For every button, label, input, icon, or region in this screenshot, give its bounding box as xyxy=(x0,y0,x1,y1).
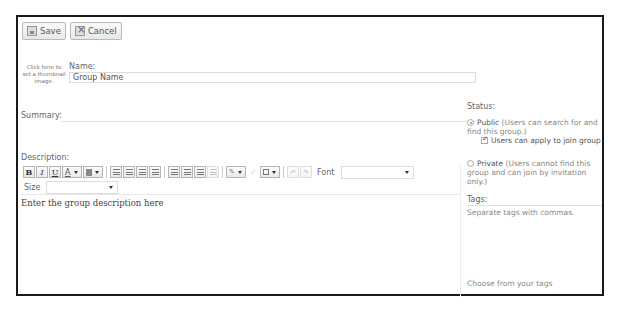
highlight-color-button[interactable] xyxy=(83,166,103,178)
choose-tags-link[interactable]: Choose from your tags xyxy=(467,279,552,288)
unlink-icon: ⤢ xyxy=(250,168,256,176)
font-color-icon: A xyxy=(65,168,70,177)
outdent-icon xyxy=(197,169,204,175)
image-icon xyxy=(263,169,269,175)
toolbar-divider xyxy=(106,166,107,178)
private-radio[interactable] xyxy=(467,160,474,167)
size-row: Size xyxy=(21,180,460,195)
description-label: Description: xyxy=(21,153,69,162)
bold-button[interactable]: B xyxy=(23,166,35,178)
justify-button[interactable] xyxy=(149,166,161,178)
sidebar: Status: Public (Users can search for and… xyxy=(467,102,602,217)
tags-label: Tags: xyxy=(467,195,602,204)
description-textarea[interactable]: Enter the group description here xyxy=(21,195,460,295)
highlight-icon xyxy=(86,169,92,176)
tags-input[interactable]: Separate tags with commas. xyxy=(467,205,602,217)
align-right-icon xyxy=(139,169,146,175)
font-select[interactable] xyxy=(341,166,414,179)
align-left-button[interactable] xyxy=(110,166,122,178)
align-center-button[interactable] xyxy=(123,166,135,178)
apply-checkbox[interactable] xyxy=(481,137,488,144)
save-label: Save xyxy=(40,26,61,36)
insert-link-button[interactable]: ✎ xyxy=(226,166,246,178)
indent-button[interactable] xyxy=(207,166,219,178)
toolbar-divider xyxy=(164,166,165,178)
toolbar-divider xyxy=(222,166,223,178)
indent-icon xyxy=(210,169,217,175)
size-select[interactable] xyxy=(46,181,118,194)
editor-toolbar: B I U A ✎ ⤢ ↶ ↷ Font xyxy=(21,164,460,180)
apply-option: Users can apply to join group xyxy=(467,136,602,145)
outdent-button[interactable] xyxy=(194,166,206,178)
name-input[interactable]: Group Name xyxy=(69,72,476,83)
redo-icon: ↷ xyxy=(303,168,309,176)
redo-button[interactable]: ↷ xyxy=(300,166,312,178)
unlink-button[interactable]: ⤢ xyxy=(247,166,259,178)
description-editor: B I U A ✎ ⤢ ↶ ↷ Font Size xyxy=(21,164,461,297)
align-center-icon xyxy=(126,169,133,175)
private-option: Private (Users cannot find this group an… xyxy=(467,159,602,186)
form-toolbar: Save Cancel xyxy=(22,22,122,40)
bullet-list-button[interactable] xyxy=(181,166,193,178)
public-label: Public xyxy=(477,118,499,127)
undo-icon: ↶ xyxy=(290,168,296,176)
toolbar-divider xyxy=(283,166,284,178)
thumbnail-link[interactable]: Click here to set a thumbnail image. xyxy=(22,64,66,85)
underline-button[interactable]: U xyxy=(49,166,61,178)
save-button[interactable]: Save xyxy=(22,22,66,40)
numbered-list-button[interactable] xyxy=(168,166,180,178)
public-radio[interactable] xyxy=(467,119,474,126)
cancel-label: Cancel xyxy=(88,26,117,36)
font-label: Font xyxy=(317,168,334,177)
private-label: Private xyxy=(477,159,503,168)
insert-image-button[interactable] xyxy=(260,166,280,178)
status-label: Status: xyxy=(467,102,602,111)
pencil-icon: ✎ xyxy=(229,168,235,176)
justify-icon xyxy=(152,169,159,175)
cancel-button[interactable]: Cancel xyxy=(70,22,122,40)
edit-group-form: Save Cancel Click here to set a thumbnai… xyxy=(16,15,604,296)
size-label: Size xyxy=(24,183,40,192)
align-left-icon xyxy=(113,169,120,175)
numbered-list-icon xyxy=(171,169,178,175)
apply-label: Users can apply to join group xyxy=(491,136,601,145)
align-right-button[interactable] xyxy=(136,166,148,178)
summary-label: Summary: xyxy=(21,111,62,120)
summary-input[interactable] xyxy=(60,121,476,122)
save-icon xyxy=(27,26,37,36)
name-label: Name: xyxy=(69,62,95,71)
public-option: Public (Users can search for and find th… xyxy=(467,118,602,136)
italic-button[interactable]: I xyxy=(36,166,48,178)
cancel-icon xyxy=(75,26,85,36)
font-color-button[interactable]: A xyxy=(62,166,82,178)
bullet-list-icon xyxy=(184,169,191,175)
undo-button[interactable]: ↶ xyxy=(287,166,299,178)
